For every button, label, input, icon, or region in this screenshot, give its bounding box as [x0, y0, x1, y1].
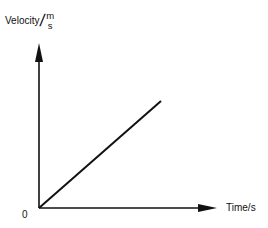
- y-axis-unit-fraction: m s: [46, 11, 54, 30]
- y-axis-quantity: Velocity: [5, 15, 39, 26]
- y-axis-arrowhead-icon: [35, 43, 43, 62]
- x-axis-arrowhead-icon: [198, 204, 217, 212]
- x-axis-label: Time/s: [226, 202, 256, 213]
- unit-denominator: s: [48, 21, 53, 30]
- y-axis-label: Velocity / m s: [5, 11, 54, 30]
- velocity-time-graph: [0, 0, 268, 228]
- origin-label: 0: [22, 209, 28, 220]
- velocity-line: [39, 101, 161, 208]
